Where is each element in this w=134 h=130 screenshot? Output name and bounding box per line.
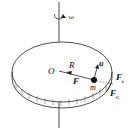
diagram-canvas: ω O R u F m Ft FC bbox=[0, 0, 134, 130]
velocity-label: u bbox=[99, 60, 103, 68]
force-c-label: FC bbox=[110, 89, 120, 100]
mass-label: m bbox=[90, 84, 96, 92]
disk-diagram bbox=[0, 0, 134, 130]
origin-label: O bbox=[48, 67, 55, 76]
force-label: F bbox=[73, 77, 79, 86]
force-t-label: Ft bbox=[116, 73, 124, 84]
omega-label: ω bbox=[69, 14, 74, 21]
radius-label: R bbox=[69, 61, 75, 70]
